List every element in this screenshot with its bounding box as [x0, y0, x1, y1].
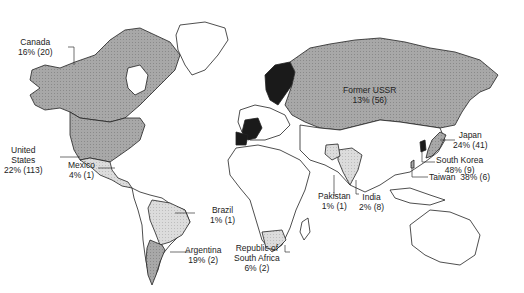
label-india: India 2% (8): [359, 192, 384, 212]
label-former-ussr: Former USSR 13% (56): [343, 85, 396, 105]
canada-region: [30, 28, 180, 122]
south-korea-region: [420, 140, 426, 152]
label-taiwan: Taiwan 38% (6): [429, 172, 490, 182]
former-ussr-region: [285, 38, 498, 130]
argentina-region: [146, 240, 165, 285]
label-japan: Japan 24% (41): [453, 130, 488, 150]
label-mexico: Mexico 4% (1): [68, 160, 95, 180]
label-pakistan: Pakistan 1% (1): [318, 191, 351, 211]
label-canada: Canada 16% (20): [18, 37, 53, 57]
label-south-africa: Republic of South Africa 6% (2): [234, 243, 280, 273]
label-argentina: Argentina 19% (2): [185, 245, 221, 265]
label-united-states: United States 22% (113): [4, 145, 43, 175]
label-brazil: Brazil 1% (1): [210, 205, 235, 225]
